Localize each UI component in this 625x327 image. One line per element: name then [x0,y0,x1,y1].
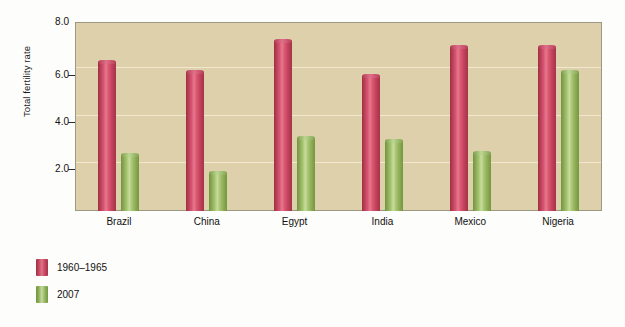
x-label-india: India [337,216,427,227]
legend-item-current[interactable]: 2007 [36,284,107,304]
bar-egypt-current[interactable] [297,138,315,211]
fertility-rate-bar-chart: Total fertility rate 8.0 6.0 4.0 2.0 Bra… [0,0,625,327]
bar-cap-icon [561,70,579,74]
y-tick-mark-4 [68,122,75,123]
legend-item-historic[interactable]: 1960–1965 [36,257,107,277]
legend-swatch-red-icon [36,259,48,276]
bar-cap-icon [186,70,204,74]
bar-cap-icon [362,74,380,78]
x-label-brazil: Brazil [74,216,164,227]
bar-brazil-historic[interactable] [98,62,116,211]
x-label-nigeria: Nigeria [513,216,603,227]
bar-group-brazil [98,22,139,211]
bar-india-current[interactable] [385,141,403,211]
bar-cap-icon [98,60,116,64]
bar-china-historic[interactable] [186,72,204,211]
bar-nigeria-historic[interactable] [538,47,556,211]
x-label-egypt: Egypt [250,216,340,227]
y-tick-label-2: 2.0 [27,163,69,174]
bar-cap-icon [385,139,403,143]
bar-nigeria-current[interactable] [561,72,579,211]
bar-group-china [186,22,227,211]
bar-india-historic[interactable] [362,76,380,211]
bar-cap-icon [297,136,315,140]
legend-label: 2007 [57,289,79,300]
bar-group-nigeria [538,22,579,211]
bar-cap-icon [473,151,491,155]
y-tick-label-8: 8.0 [27,16,69,27]
bar-brazil-current[interactable] [121,155,139,211]
bars-layer [75,22,602,211]
bar-cap-icon [274,39,292,43]
bar-egypt-historic[interactable] [274,41,292,211]
bar-group-india [362,22,403,211]
y-tick-label-4: 4.0 [27,116,69,127]
y-tick-mark-2 [68,169,75,170]
bar-group-mexico [450,22,491,211]
y-tick-label-6: 6.0 [27,69,69,80]
y-tick-mark-6 [68,75,75,76]
bar-mexico-historic[interactable] [450,47,468,211]
bar-china-current[interactable] [209,173,227,211]
bar-cap-icon [121,153,139,157]
bar-group-egypt [274,22,315,211]
x-label-china: China [162,216,252,227]
bar-cap-icon [538,45,556,49]
legend-label: 1960–1965 [57,262,107,273]
x-label-mexico: Mexico [425,216,515,227]
bar-cap-icon [209,171,227,175]
bar-cap-icon [450,45,468,49]
legend-swatch-green-icon [36,286,48,303]
bar-mexico-current[interactable] [473,153,491,211]
chart-legend: 1960–19652007 [36,257,107,311]
